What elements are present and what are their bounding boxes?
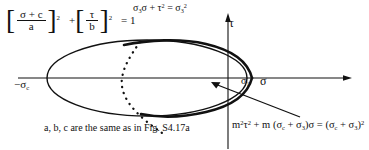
sigma-axis-arrowhead bbox=[343, 75, 352, 81]
mod-plus-2: + bbox=[288, 119, 294, 130]
mod-tau-sup: 2 bbox=[248, 119, 251, 126]
tau-axis-label: τ bbox=[229, 17, 234, 29]
tick-label-neg-sigma-c: −σc bbox=[14, 79, 29, 92]
griffith-ellipse-equation: [σ + ca]2+[τb]2= 1 bbox=[6, 9, 136, 32]
parabola-rhs-sup: 2 bbox=[184, 2, 187, 9]
mod-plus-3: + bbox=[340, 119, 346, 130]
modified-envelope-upper bbox=[124, 40, 252, 78]
mod-sigma-c-sub-2: c bbox=[335, 124, 338, 131]
parabola-equation: σ3σ + τ2 = σ32 bbox=[133, 3, 187, 14]
mod-m: m bbox=[232, 119, 240, 130]
mod-sigma: σ bbox=[309, 119, 315, 130]
plus-sign: + bbox=[60, 15, 75, 26]
modified-criterion-equation: m2τ2 + m (σc + σ3)σ = (σc + σ3)2 bbox=[232, 120, 364, 131]
sigma-axis-label: σ bbox=[260, 75, 266, 87]
sigma-1-subscript: 1 bbox=[246, 80, 249, 87]
fraction-sigma-plus-c-over-a: σ + ca bbox=[15, 9, 48, 32]
paren-close-2: ] bbox=[100, 9, 109, 31]
mod-rhs-sup: 2 bbox=[361, 119, 364, 126]
equals-one: = 1 bbox=[112, 15, 135, 26]
sigma-c-subscript: c bbox=[26, 84, 29, 91]
parabola-equals: = bbox=[167, 2, 173, 13]
parabola-tau-sup: 2 bbox=[162, 2, 165, 9]
parabola-sigma: σ bbox=[141, 2, 146, 13]
fraction-denominator-2: b bbox=[86, 21, 98, 32]
paren-close-1: ] bbox=[48, 9, 57, 31]
mod-m2: m bbox=[262, 119, 270, 130]
paren-open-2: [ bbox=[75, 9, 84, 31]
paren-open-1: [ bbox=[6, 9, 15, 31]
tick-label-sigma-1: σ1 bbox=[241, 76, 249, 87]
reference-note: a, b, c are the same as in Fig. S4.17a bbox=[44, 123, 190, 133]
fraction-tau-over-b: τb bbox=[84, 9, 100, 32]
mod-sigma-c-sub: c bbox=[282, 124, 285, 131]
parabola-dotted-curve bbox=[122, 42, 162, 133]
parabola-plus: + bbox=[149, 2, 155, 13]
mod-plus: + bbox=[254, 119, 260, 130]
fraction-denominator: a bbox=[17, 21, 46, 32]
mod-equals: = bbox=[317, 119, 323, 130]
